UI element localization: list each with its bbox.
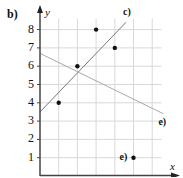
y-tick-label: 5 <box>22 77 34 92</box>
y-tick-label: 7 <box>22 40 34 55</box>
y-tick-label: 4 <box>22 95 34 110</box>
y-tick-label: 2 <box>22 131 34 146</box>
data-point <box>131 156 135 160</box>
y-axis-label: y <box>45 6 50 18</box>
trend-line <box>40 22 126 112</box>
y-axis-arrow-icon <box>37 5 43 13</box>
part-label: b) <box>7 7 18 22</box>
x-axis-label: x <box>170 160 175 172</box>
data-point <box>113 46 117 50</box>
y-tick-label: 3 <box>22 113 34 128</box>
grid-lines <box>37 19 162 176</box>
y-tick-label: 8 <box>22 22 34 37</box>
data-point <box>75 64 79 68</box>
y-tick-label: 1 <box>22 150 34 165</box>
line-label: e) <box>158 116 166 127</box>
line-label: e) <box>120 151 128 162</box>
line-label: c) <box>123 6 131 17</box>
y-tick-label: 6 <box>22 58 34 73</box>
data-point <box>57 101 61 105</box>
data-point <box>94 27 98 31</box>
x-axis-arrow-icon <box>171 173 180 178</box>
